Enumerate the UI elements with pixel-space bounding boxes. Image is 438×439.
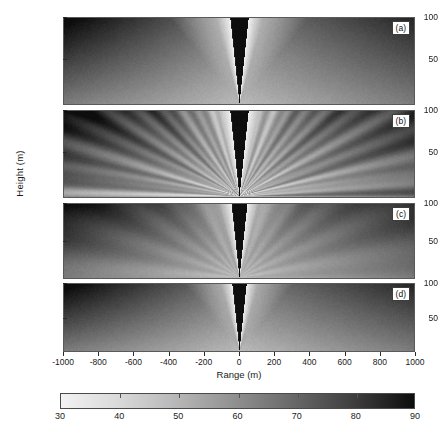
ytick-mark-d-50 (63, 318, 67, 319)
colorbar-label-80: 80 (336, 411, 376, 422)
y-axis-label: Height (m) (14, 129, 25, 219)
colorbar-tick-60 (239, 394, 240, 398)
colorbar-tick-50 (179, 394, 180, 398)
panel-d-label: (d) (392, 287, 410, 301)
colorbar-tick-80 (357, 394, 358, 398)
colorbar (60, 393, 415, 409)
ytick-mark-a-100 (63, 17, 67, 18)
colorbar-label-50: 50 (158, 411, 198, 422)
colorbar-tickmarks (61, 394, 414, 408)
panel-a: (a) (63, 17, 415, 105)
panel-a-label: (a) (392, 21, 410, 35)
xtick-mark-400 (309, 352, 310, 356)
xtick-mark--400 (169, 352, 170, 356)
panel-c-label: (c) (392, 207, 410, 221)
xtick-mark--800 (98, 352, 99, 356)
xtick-mark-1000 (415, 352, 416, 356)
xtick-mark--200 (204, 352, 205, 356)
xtick-mark-600 (345, 352, 346, 356)
panel-d: (d) (63, 283, 415, 352)
ytick-b-50: 50 (380, 148, 438, 157)
xtick-mark-0 (239, 352, 240, 356)
colorbar-label-30: 30 (40, 411, 80, 422)
panel-c-image (64, 204, 414, 278)
panel-b-image (64, 111, 414, 197)
ytick-mark-d-100 (63, 283, 67, 284)
panel-b-label: (b) (392, 114, 410, 128)
panel-a-image (64, 18, 414, 104)
panel-d-image (64, 284, 414, 351)
colorbar-tick-40 (120, 394, 121, 398)
xtick-mark-800 (380, 352, 381, 356)
figure-container: (a) (b) (c) (d) 100 50 100 50 100 50 100… (0, 0, 438, 439)
colorbar-tick-70 (298, 394, 299, 398)
ytick-mark-b-50 (63, 152, 67, 153)
xtick-mark--600 (133, 352, 134, 356)
ytick-mark-c-100 (63, 203, 67, 204)
panel-c: (c) (63, 203, 415, 279)
x-axis-label: Range (m) (63, 369, 415, 380)
ytick-mark-c-50 (63, 241, 67, 242)
colorbar-label-60: 60 (218, 411, 258, 422)
ytick-d-50: 50 (380, 314, 438, 323)
colorbar-label-90: 90 (395, 411, 435, 422)
xtick-mark--1000 (63, 352, 64, 356)
ytick-a-50: 50 (380, 55, 438, 64)
ytick-mark-b-100 (63, 110, 67, 111)
ytick-mark-a-50 (63, 59, 67, 60)
colorbar-label-40: 40 (99, 411, 139, 422)
ytick-c-50: 50 (380, 237, 438, 246)
colorbar-label-70: 70 (277, 411, 317, 422)
panel-b: (b) (63, 110, 415, 198)
xtick-label-1000: 1000 (392, 357, 438, 367)
xtick-mark-200 (274, 352, 275, 356)
